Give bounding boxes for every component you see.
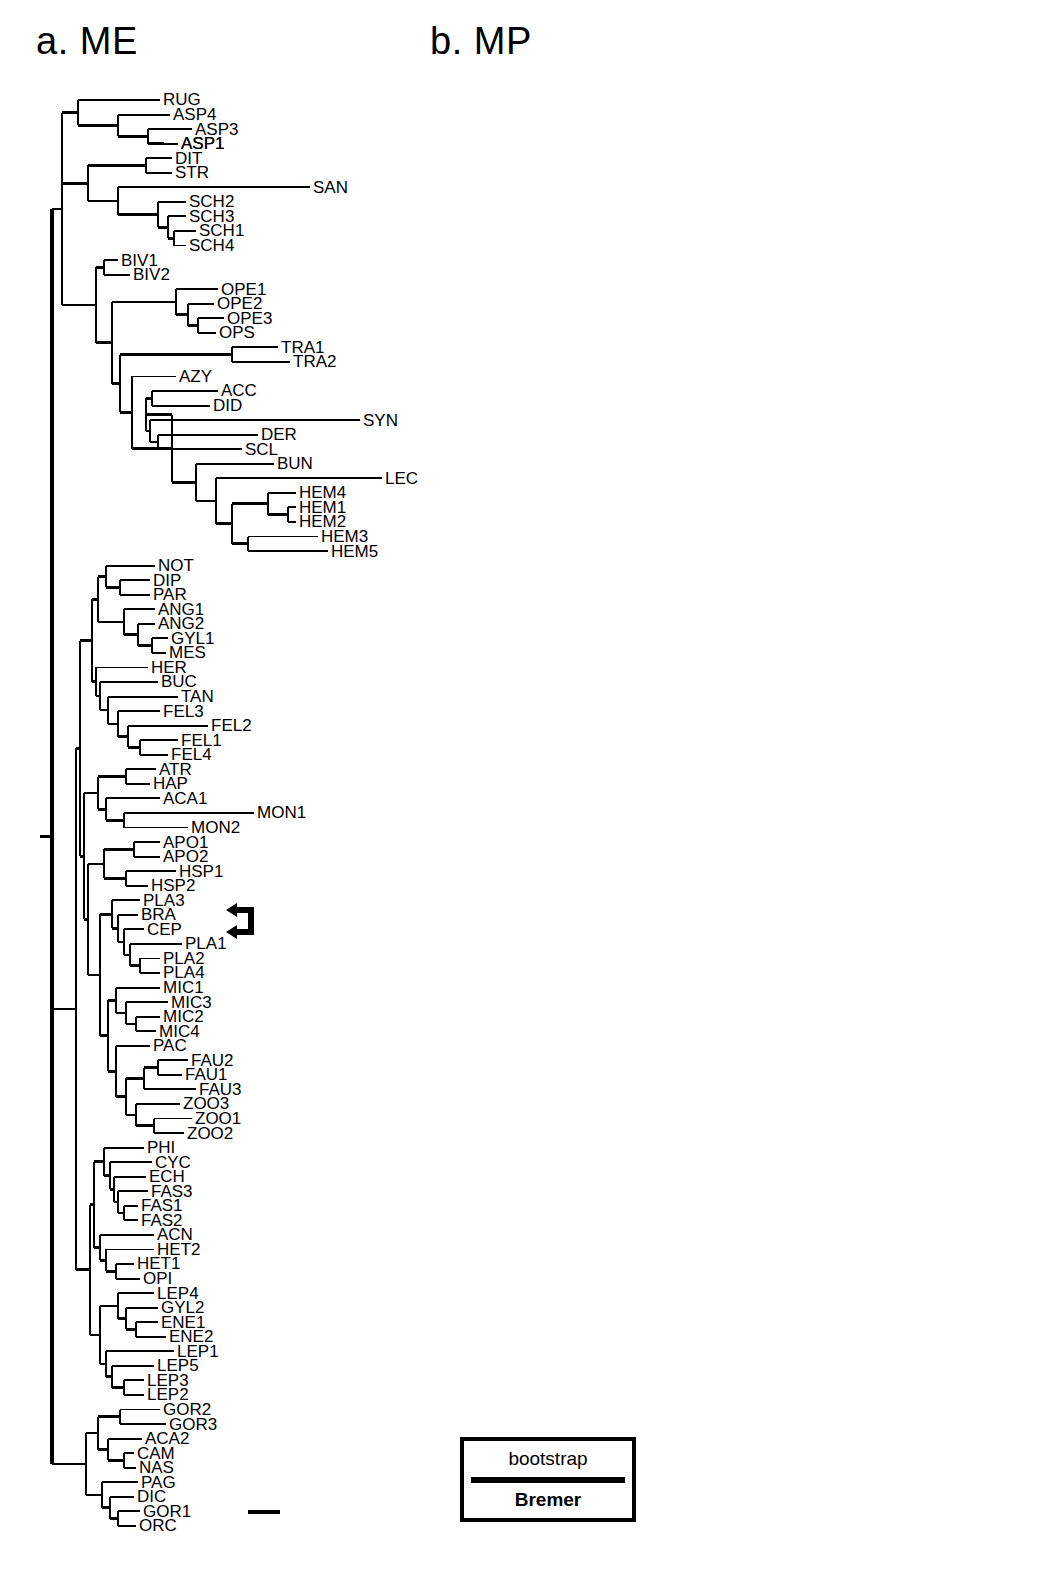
taxon-label-GOR1: GOR1: [143, 1502, 191, 1521]
taxon-label-OPS: OPS: [219, 323, 255, 342]
taxon-label-HSP2: HSP2: [151, 876, 195, 895]
taxon-label-HET2: HET2: [157, 1240, 200, 1259]
taxon-label-STR: STR: [175, 163, 209, 182]
scale-bar: [248, 1510, 280, 1514]
taxon-label-FEL2: FEL2: [211, 716, 252, 735]
taxon-label-ZOO1: ZOO1: [195, 1109, 241, 1128]
taxon-label-SAN: SAN: [313, 178, 348, 197]
taxon-label-ASP1: ASP1: [181, 134, 224, 153]
taxon-label-SYN: SYN: [363, 411, 398, 430]
taxon-label-GYL1: GYL1: [171, 629, 214, 648]
taxon-label-PAC: PAC: [153, 1036, 187, 1055]
taxon-label-HEM4: HEM4: [299, 483, 346, 502]
taxon-label-LEP3: LEP3: [147, 1371, 189, 1390]
taxon-label-MIC4: MIC4: [159, 1022, 200, 1041]
taxon-label-LEP4: LEP4: [157, 1284, 199, 1303]
taxon-label-OPE1: OPE1: [221, 280, 266, 299]
taxon-label-BIV1: BIV1: [121, 251, 158, 270]
support-legend: bootstrap Bremer: [460, 1437, 636, 1522]
taxon-label-GOR2: GOR2: [163, 1400, 211, 1419]
taxon-label-CAM: CAM: [137, 1444, 175, 1463]
taxon-label-TRA2: TRA2: [293, 352, 336, 371]
taxon-label-FAU2: FAU2: [191, 1051, 234, 1070]
taxon-label-MES: MES: [169, 643, 206, 662]
taxon-label-LEP1: LEP1: [177, 1342, 219, 1361]
taxon-label-SCH1: SCH1: [199, 221, 244, 240]
taxon-label-CEP: CEP: [147, 920, 182, 939]
taxon-label-ZOO3: ZOO3: [183, 1094, 229, 1113]
me-tree-group: RUGASP4ASP3ASP1ASP1DITSTRSANSCH2SCH3SCH1…: [40, 90, 418, 1535]
taxon-label-PAR: PAR: [153, 585, 187, 604]
taxon-label-TAN: TAN: [181, 687, 214, 706]
taxon-label-PLA2: PLA2: [163, 949, 205, 968]
taxon-label-FAS2: FAS2: [141, 1211, 183, 1230]
taxon-label-BRA: BRA: [141, 905, 177, 924]
taxon-label-MON2: MON2: [191, 818, 240, 837]
taxon-label-HEM5: HEM5: [331, 542, 378, 561]
taxon-label-ACC: ACC: [221, 381, 257, 400]
taxon-label-FEL3: FEL3: [163, 702, 204, 721]
taxon-label-DIC: DIC: [137, 1487, 166, 1506]
double-left-arrow-icon: [224, 899, 264, 943]
taxon-label-FEL1: FEL1: [181, 731, 222, 750]
taxon-label-PAG: PAG: [141, 1473, 176, 1492]
taxon-label-ANG1: ANG1: [158, 600, 204, 619]
taxon-label-ANG2: ANG2: [158, 614, 204, 633]
taxon-label-AZY: AZY: [179, 367, 212, 386]
taxon-label-DER: DER: [261, 425, 297, 444]
taxon-label-PLA1: PLA1: [185, 934, 227, 953]
taxon-label-DID: DID: [213, 396, 242, 415]
taxon-label-SCH4: SCH4: [189, 236, 234, 255]
taxon-label-BUN: BUN: [277, 454, 313, 473]
taxon-label-ECH: ECH: [149, 1167, 185, 1186]
taxon-label-OPE3: OPE3: [227, 309, 272, 328]
taxon-label-LEP5: LEP5: [157, 1356, 199, 1375]
taxon-label-ENE2: ENE2: [169, 1327, 213, 1346]
taxon-label-HEM1: HEM1: [299, 498, 346, 517]
taxon-label-FAU1: FAU1: [185, 1065, 228, 1084]
taxon-label-NAS: NAS: [139, 1458, 174, 1477]
taxon-label-ACN: ACN: [157, 1225, 193, 1244]
taxon-label-ATR: ATR: [159, 760, 192, 779]
taxon-label-DIP: DIP: [153, 571, 181, 590]
taxon-label-OPI: OPI: [143, 1269, 172, 1288]
taxon-label-APO2: APO2: [163, 847, 208, 866]
taxon-label-HET1: HET1: [137, 1254, 180, 1273]
taxon-label-SCL: SCL: [245, 440, 278, 459]
taxon-label-RUG: RUG: [163, 90, 201, 109]
taxon-label-PHI: PHI: [147, 1138, 175, 1157]
taxon-label-ASP4: ASP4: [173, 105, 216, 124]
taxon-label-MON1: MON1: [257, 803, 306, 822]
taxon-label-ACA1: ACA1: [163, 789, 207, 808]
taxon-label-TRA1: TRA1: [281, 338, 324, 357]
taxon-label-GOR3: GOR3: [169, 1415, 217, 1434]
phylogenetic-trees-svg: RUGASP4ASP3ASP1ASP1DITSTRSANSCH2SCH3SCH1…: [0, 0, 1051, 1570]
taxon-label-PLA3: PLA3: [143, 891, 185, 910]
taxon-label-BIV2: BIV2: [133, 265, 170, 284]
taxon-label-HEM3: HEM3: [321, 527, 368, 546]
taxon-label-ASP1: ASP1: [181, 134, 224, 153]
taxon-label-ASP3: ASP3: [195, 120, 238, 139]
taxon-label-ENE1: ENE1: [161, 1313, 205, 1332]
taxon-label-HER: HER: [151, 658, 187, 677]
taxon-label-DIT: DIT: [175, 149, 202, 168]
taxon-label-MIC1: MIC1: [163, 978, 204, 997]
taxon-label-ACA2: ACA2: [145, 1429, 189, 1448]
legend-bootstrap-label: bootstrap: [464, 1441, 632, 1477]
taxon-label-FAU3: FAU3: [199, 1080, 242, 1099]
legend-bremer-label: Bremer: [464, 1483, 632, 1517]
taxon-label-SCH3: SCH3: [189, 207, 234, 226]
taxon-label-NOT: NOT: [158, 556, 194, 575]
taxon-label-SCH2: SCH2: [189, 192, 234, 211]
taxon-label-GYL2: GYL2: [161, 1298, 204, 1317]
taxon-label-FAS3: FAS3: [151, 1182, 193, 1201]
taxon-label-CYC: CYC: [155, 1153, 191, 1172]
taxon-label-LEC: LEC: [385, 469, 418, 488]
taxon-label-LEP2: LEP2: [147, 1385, 189, 1404]
taxon-label-PLA4: PLA4: [163, 963, 205, 982]
taxon-label-OPE2: OPE2: [217, 294, 262, 313]
taxon-label-ORC: ORC: [139, 1516, 177, 1535]
taxon-label-HAP: HAP: [153, 774, 188, 793]
taxon-label-MIC2: MIC2: [163, 1007, 204, 1026]
taxon-label-FAS1: FAS1: [141, 1196, 183, 1215]
